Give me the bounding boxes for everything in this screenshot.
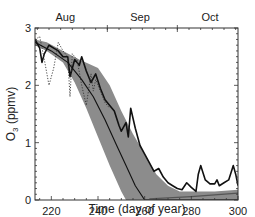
y-axis-title-unit: (ppmv) (4, 87, 18, 128)
y-tick-label: 1 (25, 137, 31, 149)
month-label-aug: Aug (56, 11, 76, 23)
y-tick-label: 2 (25, 79, 31, 91)
model-range-band (35, 40, 238, 201)
y-tick-label: 0 (25, 194, 31, 206)
y-axis-title-main: O (4, 132, 18, 141)
plot-area (35, 37, 238, 200)
y-tick-label: 3 (25, 22, 31, 34)
ozone-time-series-chart: 0123220240260280300AugSepOct Time (day o… (0, 0, 255, 217)
month-label-sep: Sep (130, 11, 150, 23)
y-axis-title: O3 (ppmv) (4, 87, 20, 141)
x-axis-title: Time (day of year) (89, 202, 186, 216)
x-tick-label: 300 (229, 205, 247, 217)
month-label-oct: Oct (201, 11, 218, 23)
x-tick-label: 220 (42, 205, 60, 217)
